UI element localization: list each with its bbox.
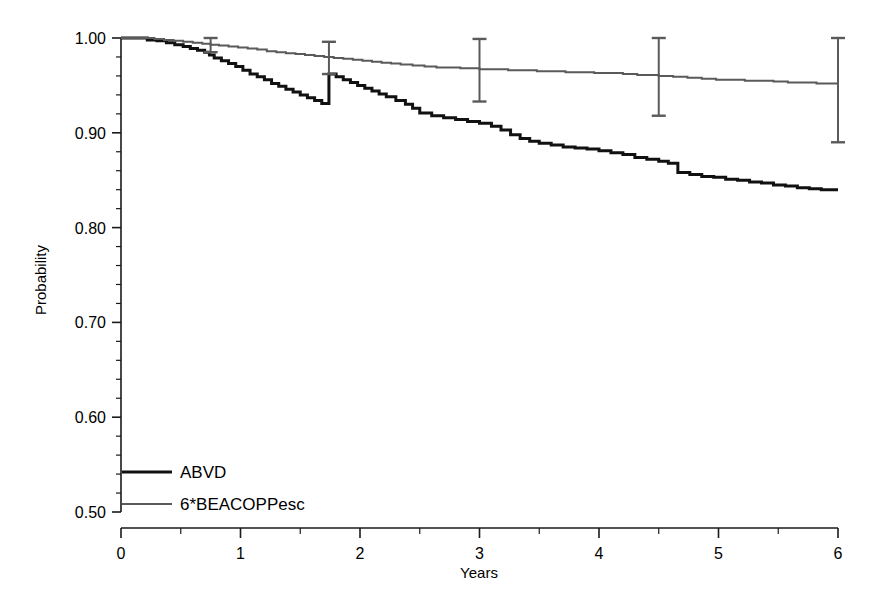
chart-canvas: 0.500.600.700.800.901.00 Probability 012… [0,0,878,596]
x-axis-group: 0123456 Years [117,528,843,581]
y-axis-group: 0.500.600.700.800.901.00 Probability [32,30,121,521]
x-tick-label: 6 [834,545,843,562]
x-axis-title: Years [460,564,498,581]
x-tick-label: 5 [714,545,723,562]
x-axis-major-ticks [121,528,838,538]
y-tick-label: 0.50 [75,504,106,521]
x-tick-label: 0 [117,545,126,562]
x-tick-label: 3 [475,545,484,562]
y-tick-label: 1.00 [75,30,106,47]
y-tick-label: 0.80 [75,220,106,237]
y-tick-label: 0.70 [75,314,106,331]
km-survival-chart: 0.500.600.700.800.901.00 Probability 012… [0,0,878,596]
x-tick-label: 4 [595,545,604,562]
x-tick-label: 2 [356,545,365,562]
y-axis-tick-labels: 0.500.600.700.800.901.00 [75,30,106,521]
x-tick-label: 1 [236,545,245,562]
legend-label-beacopp: 6*BEACOPPesc [180,495,305,514]
y-axis-major-ticks [112,38,121,512]
y-axis-title: Probability [32,244,49,315]
y-tick-label: 0.90 [75,125,106,142]
chart-legend: ABVD 6*BEACOPPesc [122,463,305,514]
y-tick-label: 0.60 [75,409,106,426]
x-axis-tick-labels: 0123456 [117,545,843,562]
legend-label-abvd: ABVD [180,463,226,482]
